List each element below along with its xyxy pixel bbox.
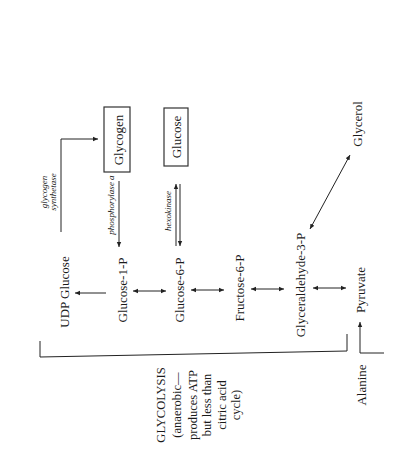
glycogen-node: Glycogen — [104, 107, 130, 172]
alanine-to-pyruvate-arrow — [360, 322, 384, 353]
glycolysis-note-line-3: produces ATP — [186, 370, 200, 440]
phosphorylase-label: phosphorylase a — [106, 175, 116, 236]
glycolysis-note-line-1: GLYCOLYSIS — [154, 367, 168, 442]
glycolysis-note: GLYCOLYSIS (anaerobic— produces ATP but … — [154, 367, 243, 442]
glucose-1p-label: Glucose-1-P — [115, 258, 130, 323]
glycogen-synthetase-label-2: synthetase — [48, 173, 58, 211]
glycerol-label: Glycerol — [350, 101, 365, 147]
glycolysis-note-line-6: cycle) — [229, 390, 243, 421]
pathway-diagram: Glycogen Glucose Glycerol glycogen synth… — [0, 0, 402, 465]
glucose-node: Glucose — [164, 108, 188, 166]
pyruvate-label: Pyruvate — [353, 267, 368, 313]
glycolysis-note-line-5: citric acid — [215, 379, 229, 429]
glycolysis-note-line-2: (anaerobic— — [170, 372, 184, 438]
hexokinase-label: hexokinase — [163, 191, 173, 231]
glycogen-synthetase-arrow — [61, 139, 98, 232]
udp-glucose-label: UDP Glucose — [57, 256, 72, 328]
glycolysis-note-line-4: but less than — [200, 373, 214, 436]
glycogen-label: Glycogen — [111, 114, 126, 165]
glucose-label: Glucose — [169, 115, 184, 158]
glucose-6p-label: Glucose-6-P — [172, 258, 187, 323]
glyceraldehyde-3p-label: Glyceraldehyde-3-P — [293, 233, 308, 338]
fructose-6p-label: Fructose-6-P — [232, 254, 247, 321]
alanine-label: Alanine — [354, 364, 369, 405]
g3p-glycerol-arrow — [310, 155, 350, 229]
